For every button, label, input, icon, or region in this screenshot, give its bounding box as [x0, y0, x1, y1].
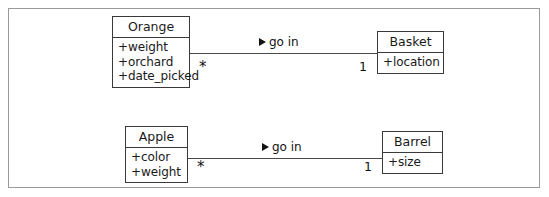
- class-attributes-orange: +weight +orchard +date_picked: [113, 38, 189, 87]
- class-attributes-apple: +color +weight: [126, 148, 187, 182]
- direction-triangle-icon: [262, 143, 269, 151]
- class-name-basket: Basket: [378, 32, 443, 53]
- attribute-item: +weight: [131, 165, 181, 180]
- attribute-item: +size: [388, 155, 436, 170]
- association-label-text: go in: [269, 35, 299, 49]
- class-name-barrel: Barrel: [383, 132, 442, 153]
- class-name-orange: Orange: [113, 17, 189, 38]
- association-line-apple-barrel: [188, 158, 382, 159]
- class-box-orange[interactable]: Orange +weight +orchard +date_picked: [112, 16, 190, 88]
- attribute-item: +orchard: [118, 55, 183, 70]
- association-label-apple-barrel: go in: [260, 141, 304, 154]
- class-box-basket[interactable]: Basket +location: [377, 31, 444, 74]
- multiplicity-barrel: 1: [364, 160, 372, 173]
- association-label-orange-basket: go in: [257, 36, 301, 49]
- attribute-item: +date_picked: [118, 69, 183, 84]
- diagram-canvas: go in * 1 Orange +weight +orchard +date_…: [0, 0, 549, 197]
- class-attributes-barrel: +size: [383, 153, 442, 173]
- attribute-item: +weight: [118, 40, 183, 55]
- direction-triangle-icon: [259, 38, 266, 46]
- multiplicity-basket: 1: [359, 60, 367, 73]
- association-label-text: go in: [272, 140, 302, 154]
- association-line-orange-basket: [190, 53, 377, 54]
- multiplicity-apple: *: [197, 162, 205, 172]
- class-box-apple[interactable]: Apple +color +weight: [125, 126, 188, 183]
- attribute-item: +color: [131, 150, 181, 165]
- class-attributes-basket: +location: [378, 53, 443, 73]
- class-box-barrel[interactable]: Barrel +size: [382, 131, 443, 174]
- attribute-item: +location: [383, 55, 437, 70]
- multiplicity-orange: *: [199, 62, 207, 72]
- class-name-apple: Apple: [126, 127, 187, 148]
